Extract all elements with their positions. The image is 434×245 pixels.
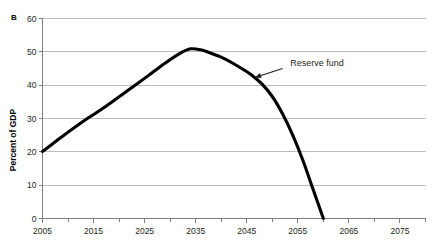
y-tick-label-40: 40	[27, 80, 37, 90]
y-tick-label-50: 50	[27, 47, 37, 57]
x-tick-label-2015: 2015	[84, 226, 103, 236]
reserve-fund-line-chart: 0102030405060 20052015202520352045205520…	[0, 0, 434, 245]
panel-label: B	[11, 13, 17, 22]
y-tick-label-10: 10	[27, 180, 37, 190]
x-tick-label-2045: 2045	[237, 226, 256, 236]
x-tick-label-2065: 2065	[339, 226, 358, 236]
x-tick-label-2005: 2005	[33, 226, 52, 236]
y-tick-label-0: 0	[32, 214, 37, 224]
x-tick-label-2025: 2025	[135, 226, 154, 236]
y-tick-label-60: 60	[27, 14, 37, 24]
chart-figure: 0102030405060 20052015202520352045205520…	[0, 0, 434, 245]
y-axis-title: Percent of GDP	[8, 109, 18, 172]
annotation-label: Reserve fund	[290, 58, 344, 68]
y-tick-label-30: 30	[27, 114, 37, 124]
y-tick-label-20: 20	[27, 147, 37, 157]
x-tick-label-2035: 2035	[186, 226, 205, 236]
x-tick-label-2055: 2055	[288, 226, 307, 236]
x-tick-label-2075: 2075	[391, 226, 410, 236]
chart-background	[0, 0, 434, 245]
